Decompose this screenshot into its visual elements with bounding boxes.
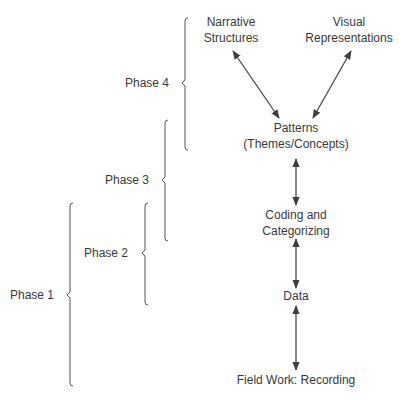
node-visual-line2: Representations xyxy=(305,31,392,47)
node-narrative-line2: Structures xyxy=(204,31,259,47)
node-visual-representations: Visual Representations xyxy=(305,15,392,46)
brace-phase-2 xyxy=(142,203,148,305)
node-field-work-recording: Field Work: Recording xyxy=(237,373,356,389)
diagram-lines xyxy=(0,0,413,400)
node-narrative-structures: Narrative Structures xyxy=(204,15,259,46)
node-patterns-line2: (Themes/Concepts) xyxy=(243,137,348,153)
phase-4-label: Phase 4 xyxy=(125,76,169,90)
brace-phase-3 xyxy=(162,120,168,241)
node-fieldwork-line1: Field Work: Recording xyxy=(237,373,356,389)
node-coding-line1: Coding and xyxy=(262,208,329,224)
node-visual-line1: Visual xyxy=(305,15,392,31)
node-coding-categorizing: Coding and Categorizing xyxy=(262,208,329,239)
phase-3-label: Phase 3 xyxy=(105,173,149,187)
brace-phase-1 xyxy=(67,203,73,386)
node-narrative-line1: Narrative xyxy=(204,15,259,31)
phase-1-label: Phase 1 xyxy=(10,288,54,302)
brace-phase-4 xyxy=(182,18,188,150)
node-patterns: Patterns (Themes/Concepts) xyxy=(243,121,348,152)
node-data-line1: Data xyxy=(283,289,308,305)
phase-2-label: Phase 2 xyxy=(84,246,128,260)
node-patterns-line1: Patterns xyxy=(243,121,348,137)
node-coding-line2: Categorizing xyxy=(262,224,329,240)
node-data: Data xyxy=(283,289,308,305)
arrow-patterns-visual xyxy=(313,51,351,118)
arrow-patterns-narrative xyxy=(233,51,279,118)
